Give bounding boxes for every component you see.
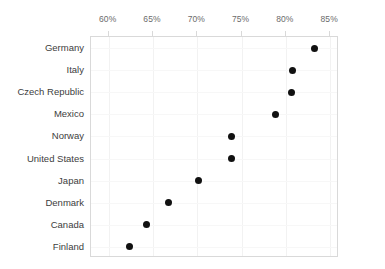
x-tick-label: 75% xyxy=(232,14,249,24)
y-gridline xyxy=(91,159,337,160)
y-gridline xyxy=(91,48,337,49)
data-point[interactable] xyxy=(288,89,295,96)
y-gridline xyxy=(91,114,337,115)
category-label: Norway xyxy=(52,130,84,141)
y-gridline xyxy=(91,70,337,71)
data-point[interactable] xyxy=(272,111,279,118)
data-point[interactable] xyxy=(126,243,133,250)
data-point[interactable] xyxy=(289,67,296,74)
category-label: Czech Republic xyxy=(17,86,84,97)
x-tick-label: 85% xyxy=(320,14,337,24)
data-point[interactable] xyxy=(228,155,235,162)
category-label: Italy xyxy=(67,64,84,75)
data-point[interactable] xyxy=(228,133,235,140)
x-tick-label: 70% xyxy=(188,14,205,24)
category-label: Canada xyxy=(51,218,84,229)
data-point[interactable] xyxy=(195,177,202,184)
data-point[interactable] xyxy=(143,221,150,228)
data-point[interactable] xyxy=(311,45,318,52)
y-gridline xyxy=(91,136,337,137)
dot-plot-chart: 60%65%70%75%80%85% GermanyItalyCzech Rep… xyxy=(0,0,385,269)
category-label: Denmark xyxy=(45,196,84,207)
y-gridline xyxy=(91,181,337,182)
category-label: Mexico xyxy=(54,108,84,119)
category-label: Finland xyxy=(53,240,84,251)
data-point[interactable] xyxy=(165,199,172,206)
x-axis: 60%65%70%75%80%85% xyxy=(90,14,338,36)
y-gridline xyxy=(91,203,337,204)
category-label: Japan xyxy=(58,174,84,185)
y-gridline xyxy=(91,92,337,93)
x-tick-label: 80% xyxy=(276,14,293,24)
category-label: Germany xyxy=(45,42,84,53)
plot-area xyxy=(90,36,338,257)
x-tick-label: 65% xyxy=(143,14,160,24)
y-axis: GermanyItalyCzech RepublicMexicoNorwayUn… xyxy=(0,36,84,257)
x-tick-label: 60% xyxy=(99,14,116,24)
category-label: United States xyxy=(27,152,84,163)
y-gridline xyxy=(91,225,337,226)
